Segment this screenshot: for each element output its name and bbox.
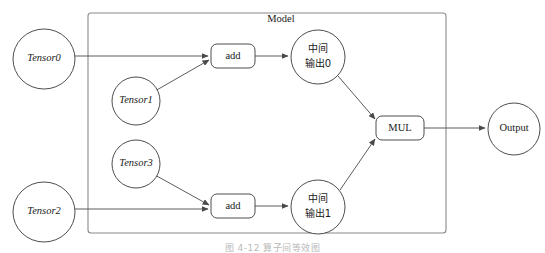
node-add-bottom[interactable]: add xyxy=(211,194,255,218)
operator-equivalence-diagram: Model Tensor0 Tensor1 xyxy=(0,0,545,253)
node-tensor0[interactable]: Tensor0 xyxy=(13,29,75,89)
intermediate-output-0-label-line2: 输出0 xyxy=(305,57,331,69)
node-mul[interactable]: MUL xyxy=(376,116,424,140)
tensor0-label: Tensor0 xyxy=(27,52,61,63)
tensor2-label: Tensor2 xyxy=(27,205,61,216)
intermediate-output-0-label-line1: 中间 xyxy=(308,42,328,54)
node-intermediate-output-1[interactable]: 中间 输出1 xyxy=(291,180,345,234)
mul-label: MUL xyxy=(388,122,411,133)
intermediate-output-1-ellipse xyxy=(291,180,345,234)
tensor3-label: Tensor3 xyxy=(119,157,152,168)
edge-mid1-to-mul xyxy=(340,139,375,190)
intermediate-output-1-label-line2: 输出1 xyxy=(305,207,331,219)
add-top-label: add xyxy=(225,50,241,61)
intermediate-output-1-label-line1: 中间 xyxy=(308,192,328,204)
node-output[interactable]: Output xyxy=(488,103,540,155)
intermediate-output-0-ellipse xyxy=(291,30,345,84)
add-bottom-label: add xyxy=(225,200,241,211)
edge-mid0-to-mul xyxy=(338,76,375,119)
node-tensor1[interactable]: Tensor1 xyxy=(112,77,160,125)
output-label: Output xyxy=(499,122,528,133)
diagram-root: Model Tensor0 Tensor1 xyxy=(0,0,545,253)
node-tensor2[interactable]: Tensor2 xyxy=(13,182,75,242)
figure-caption: 图 4-12 算子间等效图 xyxy=(0,243,545,253)
edge-tensor3-to-add1 xyxy=(155,175,209,205)
tensor1-label: Tensor1 xyxy=(119,94,152,105)
node-intermediate-output-0[interactable]: 中间 输出0 xyxy=(291,30,345,84)
node-tensor3[interactable]: Tensor3 xyxy=(112,140,160,188)
model-group-title: Model xyxy=(267,13,294,24)
edge-tensor1-to-add0 xyxy=(155,60,209,91)
node-add-top[interactable]: add xyxy=(211,44,255,68)
